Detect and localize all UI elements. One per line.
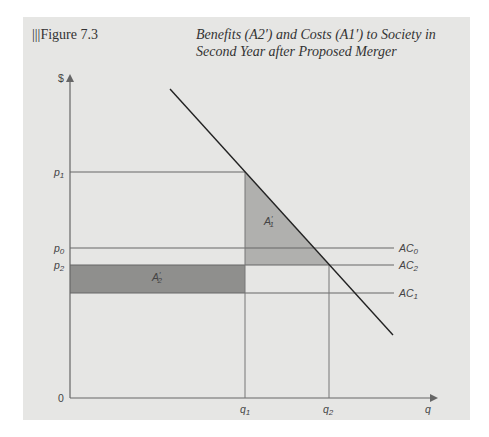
ac2-label: AC2 (398, 259, 419, 273)
x-axis-arrow (430, 394, 438, 402)
chart: $ 0 q p1 p0 p2 q1 q2 AC0 AC2 AC1 A′1 A′2 (0, 0, 489, 437)
p2-label: p2 (53, 259, 65, 273)
y-axis-arrow (66, 74, 74, 82)
y-axis-label: $ (58, 72, 64, 84)
q2-label: q2 (323, 403, 334, 417)
q1-label: q1 (240, 403, 250, 417)
demand-curve (170, 89, 393, 335)
p1-label: p1 (53, 166, 64, 180)
a1-label: A′1 (263, 214, 274, 229)
ac1-label: AC1 (398, 287, 418, 301)
ac0-label: AC0 (398, 242, 419, 256)
origin-label: 0 (58, 392, 64, 404)
x-axis-label: q (425, 403, 431, 415)
p0-label: p0 (53, 242, 65, 256)
